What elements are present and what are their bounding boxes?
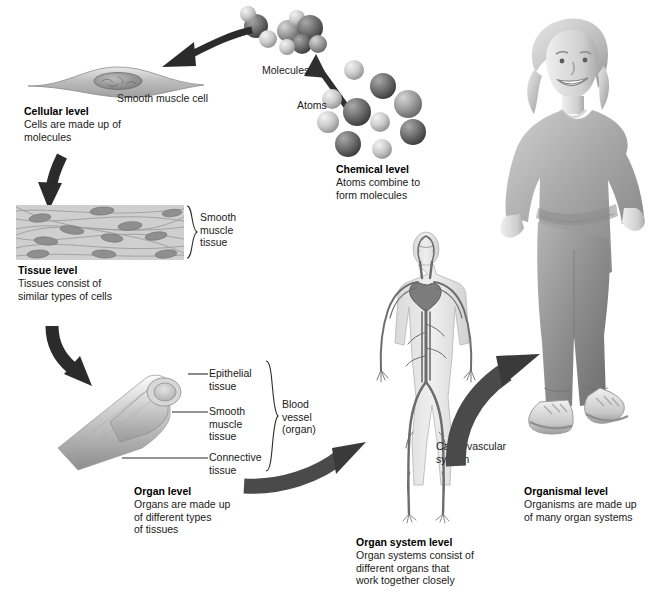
atom-cluster xyxy=(317,60,426,159)
tissue-level-body: Tissues consist of similar types of cell… xyxy=(18,277,112,302)
running-shoes xyxy=(529,388,628,434)
organ-level-heading: Organ level xyxy=(134,485,230,498)
cellular-level-body: Cells are made up of molecules xyxy=(24,118,121,143)
callout-smooth-muscle-cell: Smooth muscle cell xyxy=(117,92,208,105)
callout-blood-vessel-organ: Blood vessel (organ) xyxy=(282,398,316,436)
chemical-level-body: Atoms combine to form molecules xyxy=(336,176,420,201)
cell-nucleus xyxy=(94,73,142,90)
chemical-level-heading: Chemical level xyxy=(336,163,420,176)
organismal-level-body: Organisms are made up of many organ syst… xyxy=(524,498,637,523)
organ-system-level-body: Organ systems consist of different organ… xyxy=(356,549,474,587)
cellular-level-block: Cellular level Cells are made up of mole… xyxy=(24,105,121,143)
cellular-to-tissue-arrow xyxy=(36,152,96,212)
chemical-level-block: Chemical level Atoms combine to form mol… xyxy=(336,163,420,201)
organ-to-organ-system-arrow xyxy=(240,440,370,496)
callout-atoms: Atoms xyxy=(297,99,327,112)
face xyxy=(546,30,598,98)
organismal-level-heading: Organismal level xyxy=(524,485,637,498)
tissue-level-block: Tissue level Tissues consist of similar … xyxy=(18,264,112,302)
chemical-level-illustration xyxy=(240,4,430,154)
figure-canvas: Molecules Atoms Chemical level Atoms com… xyxy=(0,0,662,598)
organ-system-level-heading: Organ system level xyxy=(356,536,474,549)
organ-level-body: Organs are made up of different types of… xyxy=(134,498,230,536)
callout-molecules: Molecules xyxy=(262,64,309,77)
cellular-level-heading: Cellular level xyxy=(24,105,121,118)
organismal-level-illustration xyxy=(500,10,650,480)
track-pants xyxy=(537,222,609,406)
callout-epithelial-tissue: Epithelial tissue xyxy=(209,367,252,392)
organ-system-level-block: Organ system level Organ systems consist… xyxy=(356,536,474,587)
tissue-level-illustration xyxy=(16,205,184,260)
organismal-level-block: Organismal level Organisms are made up o… xyxy=(524,485,637,523)
callout-organ-smooth-muscle-tissue: Smooth muscle tissue xyxy=(209,405,245,443)
smooth-muscle-tissue-brace xyxy=(186,205,198,260)
tissue-level-heading: Tissue level xyxy=(18,264,112,277)
neck xyxy=(562,96,584,114)
organ-level-block: Organ level Organs are made up of differ… xyxy=(134,485,230,536)
callout-smooth-muscle-tissue: Smooth muscle tissue xyxy=(200,211,236,249)
left-hand xyxy=(500,214,524,238)
